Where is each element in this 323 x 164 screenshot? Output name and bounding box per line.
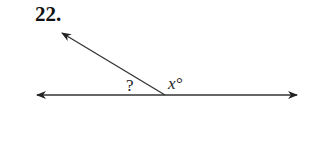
slanted-ray <box>62 33 165 95</box>
given-angle-label: x° <box>167 74 183 93</box>
unknown-angle-label: ? <box>126 76 134 95</box>
angle-diagram: ? x° <box>0 0 323 164</box>
